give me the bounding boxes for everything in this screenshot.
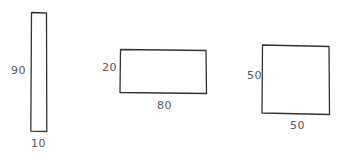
wide-rect-width-label: 80: [157, 100, 172, 111]
square-rectangle: [262, 45, 330, 115]
square-width-label: 50: [290, 120, 305, 131]
diagram-canvas: [0, 0, 345, 158]
tall-rect-height-label: 90: [11, 65, 26, 76]
tall-rectangle: [31, 13, 47, 132]
wide-rectangle: [120, 50, 207, 94]
wide-rect-height-label: 20: [102, 62, 117, 73]
square-height-label: 50: [247, 70, 262, 81]
tall-rect-width-label: 10: [31, 138, 46, 149]
